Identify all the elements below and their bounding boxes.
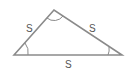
side-label-right: S — [89, 23, 96, 34]
angle-arc-left — [25, 43, 28, 55]
triangle-diagram: S S S — [0, 0, 125, 74]
side-label-left: S — [26, 23, 33, 34]
angle-arc-right — [108, 47, 109, 55]
angle-arc-apex — [47, 16, 63, 21]
side-label-bottom: S — [65, 59, 72, 70]
